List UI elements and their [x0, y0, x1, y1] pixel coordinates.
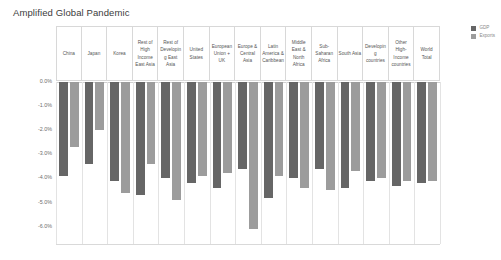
bar-group — [107, 82, 133, 245]
bar-exports[interactable] — [403, 82, 412, 181]
bar-exports[interactable] — [223, 82, 232, 174]
bar-gdp[interactable] — [136, 82, 145, 196]
bar-group — [363, 82, 389, 245]
y-axis-tick: -4.0% — [38, 176, 52, 181]
category-separator — [389, 82, 390, 245]
bar-exports[interactable] — [377, 82, 386, 179]
category-separator — [261, 82, 262, 245]
category-separator — [133, 82, 134, 245]
category-label: Japan — [88, 50, 101, 57]
bar-gdp[interactable] — [213, 82, 222, 188]
category-separator — [158, 82, 159, 245]
bar-exports[interactable] — [326, 82, 335, 191]
bar-exports[interactable] — [428, 82, 437, 181]
bar-group — [389, 82, 415, 245]
bar-exports[interactable] — [198, 82, 207, 176]
category-header-cell: Other High-Income countries — [389, 27, 415, 80]
bar-gdp[interactable] — [289, 82, 298, 179]
category-header-cell: Sub-Saharan Africa — [312, 27, 338, 80]
bar-gdp[interactable] — [315, 82, 324, 169]
bar-group — [210, 82, 236, 245]
category-header-cell: China — [56, 27, 82, 80]
chart-card: Amplified Global Pandemic GDP Exports 0.… — [0, 0, 501, 260]
bar-gdp[interactable] — [264, 82, 273, 198]
y-axis-tick: 0.0% — [40, 79, 52, 84]
category-label: World Total — [415, 46, 438, 60]
category-separator — [107, 82, 108, 245]
bar-group — [235, 82, 261, 245]
bar-group — [338, 82, 364, 245]
bar-gdp[interactable] — [417, 82, 426, 184]
category-separator — [82, 82, 83, 245]
bar-group — [286, 82, 312, 245]
category-separator — [235, 82, 236, 245]
category-label: Rest of High Income East Asia — [134, 39, 157, 67]
category-separator — [440, 82, 441, 245]
category-label: South Asia — [339, 50, 361, 57]
category-separator — [312, 82, 313, 245]
bar-gdp[interactable] — [85, 82, 94, 164]
category-label: Latin America & Caribbean — [262, 43, 285, 64]
bar-gdp[interactable] — [187, 82, 196, 184]
category-label: Korea — [113, 50, 126, 57]
bar-group — [158, 82, 184, 245]
y-axis-tick: -5.0% — [38, 200, 52, 205]
category-header-cell: United States — [184, 27, 210, 80]
bar-exports[interactable] — [95, 82, 104, 130]
category-label: European Union + UK — [211, 43, 234, 64]
y-axis-tick: -1.0% — [38, 103, 52, 108]
bar-gdp[interactable] — [238, 82, 247, 169]
bar-group — [184, 82, 210, 245]
category-header-cell: Middle East & North Africa — [286, 27, 312, 80]
bar-group — [133, 82, 159, 245]
y-axis-tick: -2.0% — [38, 127, 52, 132]
bar-group — [82, 82, 108, 245]
category-label: Sub-Saharan Africa — [313, 43, 336, 64]
category-separator — [414, 82, 415, 245]
category-header-cell: South Asia — [338, 27, 364, 80]
category-label: China — [63, 50, 75, 57]
y-axis-tick: -3.0% — [38, 151, 52, 156]
category-separator — [184, 82, 185, 245]
category-label: Europe & Central Asia — [236, 43, 259, 64]
bar-exports[interactable] — [147, 82, 156, 164]
category-header-cell: Japan — [82, 27, 108, 80]
category-separator — [286, 82, 287, 245]
bar-gdp[interactable] — [161, 82, 170, 179]
category-label: Rest of Developing East Asia — [159, 39, 182, 67]
category-header-cell: European Union + UK — [210, 27, 236, 80]
plot-area: 0.0%-1.0%-2.0%-3.0%-4.0%-5.0%-6.0% China… — [0, 0, 501, 260]
bar-exports[interactable] — [249, 82, 258, 230]
category-header-band: ChinaJapanKoreaRest of High Income East … — [56, 26, 440, 81]
category-separator — [56, 82, 57, 245]
bar-gdp[interactable] — [392, 82, 401, 186]
bar-gdp[interactable] — [366, 82, 375, 181]
category-header-cell: Rest of Developing East Asia — [158, 27, 184, 80]
bars-container — [56, 82, 440, 245]
bar-group — [312, 82, 338, 245]
category-header-cell: Developing countries — [363, 27, 389, 80]
category-header-cell: Latin America & Caribbean — [261, 27, 287, 80]
category-label: Developing countries — [364, 43, 387, 64]
category-label: United States — [185, 46, 208, 60]
category-separator — [363, 82, 364, 245]
bar-group — [56, 82, 82, 245]
category-label: Other High-Income countries — [390, 39, 413, 67]
category-separator — [210, 82, 211, 245]
bar-exports[interactable] — [351, 82, 360, 172]
bar-exports[interactable] — [121, 82, 130, 193]
bar-gdp[interactable] — [110, 82, 119, 181]
bar-gdp[interactable] — [59, 82, 68, 176]
plot-bottom-border — [56, 244, 440, 245]
bar-exports[interactable] — [275, 82, 284, 176]
category-header-cell: Rest of High Income East Asia — [133, 27, 159, 80]
bar-exports[interactable] — [300, 82, 309, 188]
category-separator — [338, 82, 339, 245]
bar-exports[interactable] — [70, 82, 79, 147]
bar-group — [414, 82, 440, 245]
category-header-cell: Korea — [107, 27, 133, 80]
category-header-cell: World Total — [414, 27, 440, 80]
bar-gdp[interactable] — [341, 82, 350, 188]
bar-exports[interactable] — [172, 82, 181, 201]
category-header-cell: Europe & Central Asia — [235, 27, 261, 80]
